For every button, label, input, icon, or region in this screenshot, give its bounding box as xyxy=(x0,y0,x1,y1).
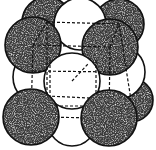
unit-cell-diagram xyxy=(0,0,156,150)
corner-atom-front-bottom-left-corner xyxy=(3,89,59,145)
atoms-layer xyxy=(3,0,153,146)
corner-atom-front-bottom-right-corner xyxy=(81,90,137,146)
